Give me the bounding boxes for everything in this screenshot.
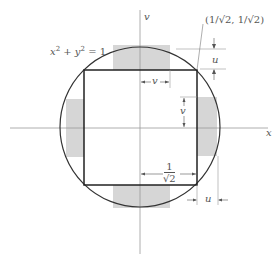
arrowhead-icon	[212, 69, 216, 74]
equation-rhs: = 1	[85, 46, 106, 57]
circle-square-diagram	[0, 0, 280, 256]
x-axis-label: x	[266, 128, 272, 138]
dim-u-top-label: u	[212, 55, 218, 65]
arrowhead-icon	[141, 81, 145, 84]
arrowhead-icon	[183, 123, 186, 127]
fraction-numerator: 1	[164, 162, 174, 173]
corner-point-leader	[197, 24, 203, 70]
dim-v-vertical-label: v	[180, 106, 186, 116]
y-axis-label: v	[144, 12, 150, 22]
arrowhead-icon	[212, 44, 216, 49]
equation-plus: +	[60, 46, 75, 57]
arrowhead-icon	[183, 98, 186, 102]
arrowhead-icon	[193, 199, 197, 202]
arrowhead-icon	[218, 199, 222, 202]
arrowhead-icon	[192, 173, 196, 176]
fraction-denominator: √2	[163, 173, 176, 184]
inscribed-square	[84, 70, 197, 185]
half-side-fraction: 1 √2	[163, 162, 176, 184]
dim-v-horizontal-label: v	[152, 76, 158, 86]
arrowhead-icon	[141, 173, 145, 176]
corner-point-label: (1/√2, 1/√2)	[205, 15, 264, 25]
dim-u-bottom-label: u	[205, 194, 211, 204]
shaded-region-right	[197, 97, 217, 156]
equation-label: x2 + y2 = 1	[50, 46, 106, 57]
arrowhead-icon	[165, 81, 169, 84]
